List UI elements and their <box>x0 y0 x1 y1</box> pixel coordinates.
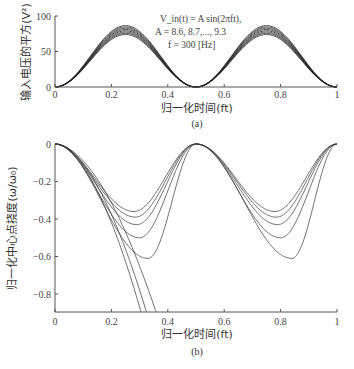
x-tick-label: 0 <box>53 316 58 327</box>
x-axis-label-b: 归一化时间(ft) <box>161 327 233 341</box>
panel-caption-b: (b) <box>191 346 203 358</box>
x-tick-label: 0.4 <box>162 316 175 327</box>
y-tick-label: 0 <box>46 139 51 150</box>
y-axis-label-b: 归一化中心点挠度(ω/ω₀) <box>5 166 19 289</box>
x-tick-label: 0.8 <box>274 316 287 327</box>
chart-panel-a: 00.20.40.60.81050100 V_in(t) = A sin(2πf… <box>19 3 340 130</box>
annotation-line-1: V_in(t) = A sin(2πft), <box>160 14 241 25</box>
ticks-b: 00.20.40.60.810−0.2−0.4−0.6−0.8 <box>33 139 340 328</box>
y-tick-label: −0.8 <box>33 289 51 300</box>
panel-caption-a: (a) <box>191 118 202 130</box>
x-axis-label-a: 归一化时间(ft) <box>161 101 233 115</box>
x-tick-label: 0.4 <box>162 89 175 100</box>
series-line <box>55 30 337 88</box>
x-tick-label: 0.2 <box>105 316 118 327</box>
series-line <box>55 144 165 340</box>
series-line <box>55 144 337 217</box>
x-tick-label: 0.6 <box>218 316 231 327</box>
y-tick-label: 100 <box>36 11 51 22</box>
y-tick-label: 50 <box>41 46 51 57</box>
series-line <box>55 28 337 87</box>
series-line <box>55 144 337 225</box>
chart-panel-b: 00.20.40.60.810−0.2−0.4−0.6−0.8 归一化时间(ft… <box>5 139 340 359</box>
y-tick-label: −0.6 <box>33 251 51 262</box>
y-tick-label: −0.2 <box>33 176 51 187</box>
series-line <box>55 144 155 340</box>
x-tick-label: 1 <box>335 316 340 327</box>
x-tick-label: 0 <box>53 89 58 100</box>
x-tick-label: 1 <box>335 89 340 100</box>
x-tick-label: 0.6 <box>218 89 231 100</box>
annotation-line-2: A = 8.6, 8.7,..., 9.3 <box>155 27 226 37</box>
x-tick-label: 0.2 <box>105 89 118 100</box>
x-tick-label: 0.8 <box>274 89 287 100</box>
annotation-line-3: f = 300 [Hz] <box>168 40 215 50</box>
y-tick-label: 0 <box>46 82 51 93</box>
y-tick-label: −0.4 <box>33 214 51 225</box>
y-axis-label-a: 输入电压的平方(V²) <box>19 3 33 101</box>
figure: 00.20.40.60.81050100 V_in(t) = A sin(2πf… <box>0 0 354 369</box>
